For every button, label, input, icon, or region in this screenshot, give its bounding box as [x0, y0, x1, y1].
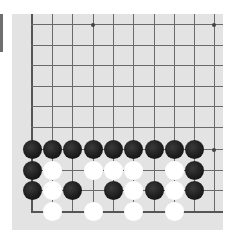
white-stone[interactable] — [165, 181, 184, 200]
black-stone[interactable] — [185, 161, 204, 180]
black-stone[interactable] — [23, 161, 42, 180]
grid-horizontal-line — [31, 45, 223, 46]
side-marker-bar — [0, 14, 3, 52]
star-point — [91, 23, 95, 27]
grid-horizontal-line — [31, 106, 223, 107]
black-stone[interactable] — [104, 181, 123, 200]
black-stone[interactable] — [43, 140, 62, 159]
star-point — [212, 148, 216, 152]
black-stone[interactable] — [63, 140, 82, 159]
white-stone[interactable] — [124, 161, 143, 180]
black-stone[interactable] — [104, 140, 123, 159]
white-stone[interactable] — [165, 202, 184, 221]
grid-vertical-line — [214, 14, 215, 212]
black-stone[interactable] — [185, 181, 204, 200]
black-stone[interactable] — [23, 140, 42, 159]
black-stone[interactable] — [124, 140, 143, 159]
go-board[interactable] — [12, 14, 223, 230]
white-stone[interactable] — [124, 202, 143, 221]
white-stone[interactable] — [104, 161, 123, 180]
white-stone[interactable] — [84, 161, 103, 180]
grid-horizontal-line — [31, 127, 223, 128]
black-stone[interactable] — [185, 140, 204, 159]
black-stone[interactable] — [145, 140, 164, 159]
grid-horizontal-line — [31, 65, 223, 66]
star-point — [212, 23, 216, 27]
white-stone[interactable] — [43, 202, 62, 221]
white-stone[interactable] — [124, 181, 143, 200]
grid-horizontal-line — [31, 24, 223, 25]
white-stone[interactable] — [43, 161, 62, 180]
black-stone[interactable] — [145, 181, 164, 200]
grid-horizontal-line — [31, 86, 223, 87]
black-stone[interactable] — [84, 140, 103, 159]
black-stone[interactable] — [23, 181, 42, 200]
white-stone[interactable] — [43, 181, 62, 200]
black-stone[interactable] — [165, 140, 184, 159]
grid-vertical-line — [93, 14, 94, 212]
black-stone[interactable] — [63, 181, 82, 200]
white-stone[interactable] — [84, 202, 103, 221]
white-stone[interactable] — [165, 161, 184, 180]
